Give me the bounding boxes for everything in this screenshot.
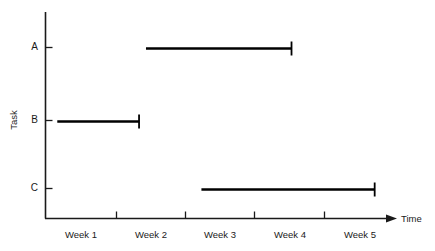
task-bars-group — [57, 42, 374, 197]
task-bar-b[interactable] — [57, 115, 139, 129]
x-label-week-1: Week 1 — [65, 229, 97, 240]
gantt-chart: A B C Task Week 1 Week 2 Week 3 Week 4 W… — [0, 0, 435, 251]
task-bar-a[interactable] — [146, 42, 292, 56]
x-axis-arrow-icon — [386, 215, 397, 223]
x-label-week-5: Week 5 — [344, 229, 376, 240]
x-label-week-4: Week 4 — [274, 229, 306, 240]
x-axis-title: Time — [401, 213, 422, 224]
y-label-task-b: B — [31, 114, 38, 125]
task-bar-c[interactable] — [201, 183, 374, 197]
x-label-week-3: Week 3 — [204, 229, 236, 240]
y-label-task-c: C — [31, 182, 38, 193]
y-label-task-a: A — [31, 41, 38, 52]
y-axis-title: Task — [8, 110, 19, 130]
chart-canvas: A B C Task Week 1 Week 2 Week 3 Week 4 W… — [0, 0, 435, 251]
x-label-week-2: Week 2 — [135, 229, 167, 240]
